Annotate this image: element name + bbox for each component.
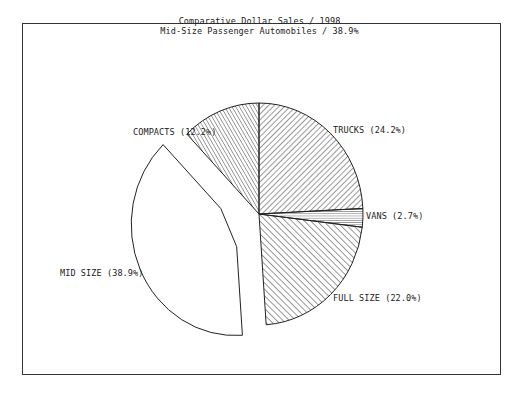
label-compacts: COMPACTS (12.2%): [133, 127, 216, 137]
label-full-size: FULL SIZE (22.0%): [333, 293, 422, 303]
pie-slice-full-size: [259, 214, 362, 325]
pie-slice-trucks: [259, 103, 363, 214]
label-vans: VANS (2.7%): [366, 211, 423, 221]
label-trucks: TRUCKS (24.2%): [333, 125, 406, 135]
pie-chart: [0, 0, 519, 395]
label-mid-size: MID SIZE (38.9%): [60, 268, 143, 278]
